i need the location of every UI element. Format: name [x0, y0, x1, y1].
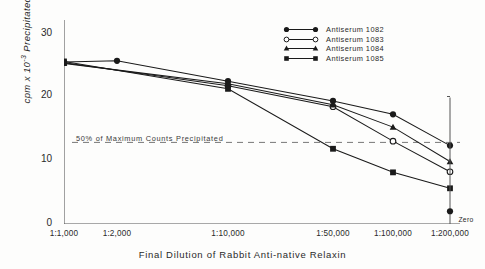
series-line-1 — [64, 61, 450, 146]
zero-point-label: Zero — [458, 216, 473, 223]
data-point-s4-3 — [390, 169, 396, 175]
data-point-s4-1 — [225, 86, 231, 92]
x-tick-label-1-1000: 1:1,000 — [50, 229, 79, 238]
zero-data-point — [447, 208, 453, 214]
y-tick-label-10: 10 — [26, 153, 52, 164]
y-tick-label-20: 20 — [26, 89, 52, 100]
series-2 — [64, 60, 453, 175]
data-point-s4-0 — [64, 59, 67, 65]
x-tick-label-1-50000: 1:50,000 — [316, 229, 349, 238]
data-point-s1-1 — [114, 58, 120, 64]
extra-point-1 — [447, 97, 453, 225]
series-4 — [64, 59, 453, 192]
x-axis-title: Final Dilution of Rabbit Anti-native Rel… — [0, 249, 485, 260]
y-tick-label-30: 30 — [26, 27, 52, 38]
data-point-s2-3 — [390, 138, 396, 144]
series-layer — [64, 58, 453, 192]
axes-layer — [64, 20, 460, 224]
data-point-s4-2 — [330, 146, 336, 152]
data-point-s1-4 — [390, 111, 396, 117]
figure-container: cpm x 10-3 Precipitated 30 20 10 0 1:1,0… — [0, 0, 485, 269]
y-axis-title-exponent: -3 — [20, 55, 27, 62]
x-tick-label-1-200000: 1:200,000 — [431, 229, 469, 238]
x-tick-label-1-100000: 1:100,000 — [374, 229, 412, 238]
series-line-4 — [64, 61, 450, 188]
chart-canvas — [64, 20, 460, 224]
y-axis-title: cpm x 10-3 Precipitated — [20, 0, 32, 140]
extra-points-layer — [447, 97, 453, 225]
x-tick-label-1-2000: 1:2,000 — [103, 229, 132, 238]
x-tick-label-1-10000: 1:10,000 — [211, 229, 244, 238]
y-tick-label-0: 0 — [26, 217, 52, 228]
plot-area — [64, 20, 460, 224]
